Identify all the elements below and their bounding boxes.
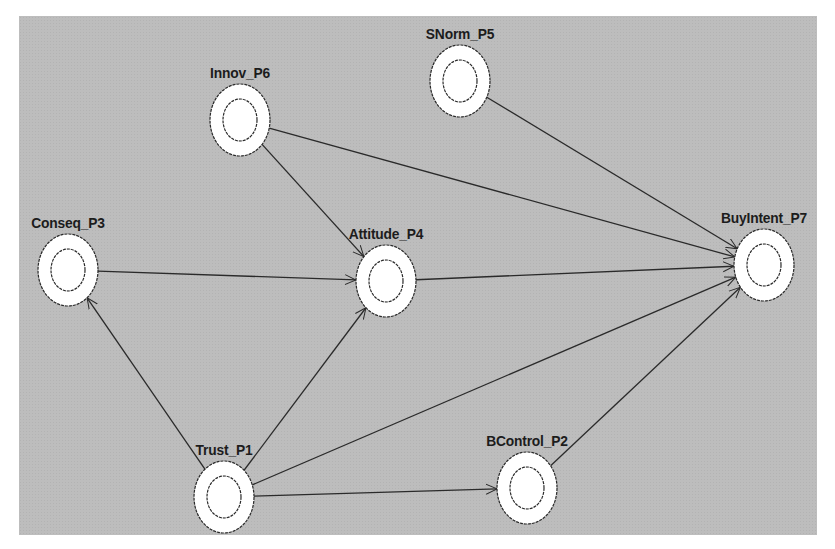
nodes-layer [38,45,794,533]
inner-circle-icon [443,60,477,102]
edge-innov-p6-to-buyintent-p7 [269,128,735,257]
node-label: Innov_P6 [210,65,270,80]
inner-circle-icon [223,99,257,141]
path-diagram [0,0,835,549]
inner-circle-icon [207,476,241,518]
edges-layer [87,97,740,496]
node-label: Conseq_P3 [31,215,105,230]
edge-attitude-p4-to-buyintent-p7 [416,266,734,279]
node-innov-p6[interactable] [210,84,270,156]
edge-trust-p1-to-attitude-p4 [244,308,366,470]
inner-circle-icon [747,244,781,286]
node-conseq-p3[interactable] [38,234,98,306]
inner-circle-icon [369,260,403,302]
node-bcontrol-p2[interactable] [497,452,557,524]
node-trust-p1[interactable] [194,461,254,533]
inner-circle-icon [510,467,544,509]
node-snorm-p5[interactable] [430,45,490,117]
node-label: SNorm_P5 [426,26,494,41]
edge-trust-p1-to-buyintent-p7 [252,277,736,485]
edge-snorm-p5-to-buyintent-p7 [487,97,737,249]
node-buyintent-p7[interactable] [734,229,794,301]
inner-circle-icon [51,249,85,291]
node-label: BuyIntent_P7 [721,210,807,225]
node-label: Trust_P1 [196,442,253,457]
node-label: Attitude_P4 [349,226,424,241]
edge-bcontrol-p2-to-buyintent-p7 [551,287,741,466]
edge-trust-p1-to-bcontrol-p2 [254,489,497,496]
edge-trust-p1-to-conseq-p3 [87,298,205,469]
edge-conseq-p3-to-attitude-p4 [98,271,356,280]
node-label: BControl_P2 [486,433,568,448]
node-attitude-p4[interactable] [356,245,416,317]
